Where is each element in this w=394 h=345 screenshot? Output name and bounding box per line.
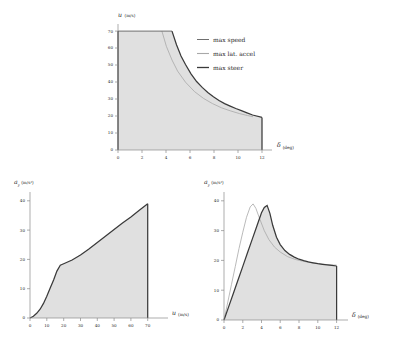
- steer-region-fill: [224, 205, 337, 320]
- panel-3-y-axis-label: ay(m/s²): [204, 178, 224, 187]
- panel-2-ytick-20: 20: [20, 257, 26, 262]
- panel-3-x-ticks: 0 2 4 6 8 10 12: [223, 320, 340, 330]
- panel-3-xtick-4: 4: [260, 325, 263, 330]
- panel-2-y-ticks: 0 10 20 30 40: [20, 198, 30, 320]
- legend: max speed max lat. accel max steer: [197, 36, 255, 71]
- panel-2-xtick-60: 60: [128, 323, 134, 328]
- panel-1-y-axis-label: u(m/s): [118, 11, 136, 18]
- panel-2-xtick-40: 40: [95, 323, 101, 328]
- panel-1-y-ticks: 0 10 20 30 40 50 60 70: [108, 29, 118, 153]
- panel-3-svg: 0 10 20 30 40 0 2 4 6 8 10 12 ay(m/s²) δ…: [196, 168, 394, 345]
- panel-1-xtick-12: 12: [259, 155, 265, 160]
- panel-1-ytick-0: 0: [110, 147, 113, 152]
- panel-1-xtick-0: 0: [117, 155, 120, 160]
- panel-3-ytick-30: 30: [214, 228, 220, 233]
- legend-label-max-steer: max steer: [213, 64, 243, 71]
- panel-3-y-ticks: 0 10 20 30 40: [214, 198, 224, 322]
- panel-2-xtick-50: 50: [111, 323, 117, 328]
- panel-3-x-axis-label: δ(deg): [352, 311, 369, 319]
- panel-2-ytick-30: 30: [20, 228, 26, 233]
- panel-2-x-axis-label: u(m/s): [172, 309, 189, 317]
- panel-2-xtick-10: 10: [44, 323, 50, 328]
- panel-3-ytick-40: 40: [214, 198, 220, 203]
- panel-3-xtick-12: 12: [334, 325, 340, 330]
- panel-3-xtick-10: 10: [315, 325, 321, 330]
- chart-panel-speed-vs-steer: 0 10 20 30 40 50 60 70 0 2 4 6 8 10 12: [0, 0, 394, 172]
- panel-2-xtick-0: 0: [29, 323, 32, 328]
- panel-2-region: [30, 204, 148, 318]
- chart-panel-lataccel-vs-speed: 0 10 20 30 40 0 10 20 30 40 50 60 70 ay(…: [0, 170, 197, 345]
- panel-3-ytick-10: 10: [214, 288, 220, 293]
- panel-2-xtick-30: 30: [78, 323, 84, 328]
- panel-3-xtick-2: 2: [241, 325, 244, 330]
- panel-2-ytick-0: 0: [22, 315, 25, 320]
- panel-3-ytick-20: 20: [214, 258, 220, 263]
- panel-2-xtick-20: 20: [61, 323, 67, 328]
- panel-1-xtick-4: 4: [165, 155, 168, 160]
- legend-label-max-lat-accel: max lat. accel: [213, 50, 255, 57]
- panel-3-ytick-0: 0: [216, 317, 219, 322]
- panel-1-ytick-60: 60: [108, 45, 114, 50]
- panel-2-ytick-10: 10: [20, 286, 26, 291]
- panel-1-ytick-50: 50: [108, 62, 114, 67]
- panel-1-ytick-30: 30: [108, 96, 114, 101]
- panel-1-ytick-70: 70: [108, 29, 114, 34]
- panel-2-xtick-70: 70: [145, 323, 151, 328]
- panel-2-x-ticks: 0 10 20 30 40 50 60 70: [29, 318, 151, 328]
- panel-1-ytick-20: 20: [108, 113, 114, 118]
- legend-label-max-speed: max speed: [213, 36, 246, 44]
- panel-1-xtick-6: 6: [189, 155, 192, 160]
- panel-1-ytick-40: 40: [108, 79, 114, 84]
- panel-3-region: [224, 204, 337, 320]
- chart-panel-lataccel-vs-steer: 0 10 20 30 40 0 2 4 6 8 10 12 ay(m/s²) δ…: [196, 168, 394, 345]
- panel-1-ytick-10: 10: [108, 130, 114, 135]
- panel-1-x-axis-label: δ(deg): [277, 141, 294, 150]
- panel-3-xtick-8: 8: [298, 325, 301, 330]
- panel-1-xtick-10: 10: [235, 155, 241, 160]
- panel-2-ytick-40: 40: [20, 198, 26, 203]
- lataccel-region-fill: [30, 204, 148, 318]
- panel-1-xtick-8: 8: [213, 155, 216, 160]
- panel-1-x-ticks: 0 2 4 6 8 10 12: [117, 150, 265, 160]
- panel-2-svg: 0 10 20 30 40 0 10 20 30 40 50 60 70 ay(…: [0, 170, 197, 345]
- panel-2-y-axis-label: ay(m/s²): [14, 178, 34, 187]
- panel-3-xtick-0: 0: [223, 325, 226, 330]
- panel-1-svg: 0 10 20 30 40 50 60 70 0 2 4 6 8 10 12: [0, 0, 394, 172]
- panel-1-xtick-2: 2: [141, 155, 144, 160]
- panel-3-xtick-6: 6: [279, 325, 282, 330]
